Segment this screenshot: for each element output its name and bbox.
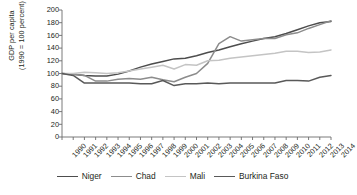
chart-legend: NigerChadMaliBurkina Faso bbox=[0, 172, 345, 181]
legend-item-niger[interactable]: Niger bbox=[57, 172, 102, 181]
legend-label: Niger bbox=[82, 172, 102, 181]
legend-label: Mali bbox=[190, 172, 205, 181]
legend-swatch-icon bbox=[57, 176, 78, 177]
legend-item-burkina-faso[interactable]: Burkina Faso bbox=[214, 172, 288, 181]
legend-swatch-icon bbox=[214, 176, 235, 177]
legend-label: Burkina Faso bbox=[239, 172, 288, 181]
legend-label: Chad bbox=[136, 172, 156, 181]
legend-swatch-icon bbox=[111, 176, 132, 177]
legend-item-mali[interactable]: Mali bbox=[165, 172, 205, 181]
legend-swatch-icon bbox=[165, 176, 186, 177]
legend-item-chad[interactable]: Chad bbox=[111, 172, 156, 181]
